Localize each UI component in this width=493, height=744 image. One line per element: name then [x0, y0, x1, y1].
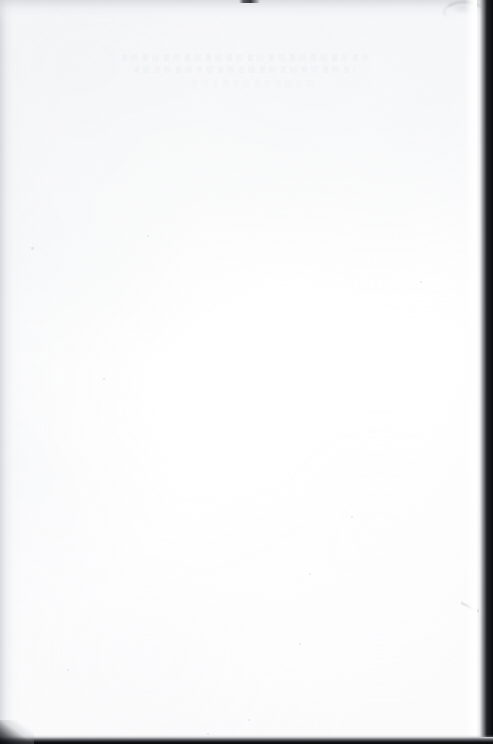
right-edge-scanner-shadow — [477, 0, 493, 737]
bleed-through-line — [134, 66, 356, 73]
paper-speckle — [299, 643, 301, 645]
paper-speckle — [31, 247, 34, 250]
paper-speckle — [420, 281, 422, 283]
left-edge-grey-wash — [0, 0, 22, 744]
bleed-through-text — [118, 52, 376, 96]
paper-speckle — [103, 378, 105, 380]
paper-speckle — [147, 235, 149, 237]
scanned-page — [0, 0, 493, 744]
paper-grain-texture — [0, 0, 493, 744]
paper-speckle — [309, 573, 311, 575]
paper-speckle — [67, 669, 69, 671]
paper-speckle — [248, 719, 250, 721]
bleed-through-line — [122, 54, 368, 61]
bottom-edge-scanner-shadow — [0, 735, 493, 744]
bottom-left-corner-wedge — [0, 720, 34, 744]
right-edge-paper-lip — [465, 0, 477, 737]
top-edge-grey-wash — [0, 0, 493, 26]
top-edge-smudge — [239, 0, 260, 3]
paper-speckle — [351, 516, 353, 518]
bleed-through-line — [192, 80, 318, 87]
